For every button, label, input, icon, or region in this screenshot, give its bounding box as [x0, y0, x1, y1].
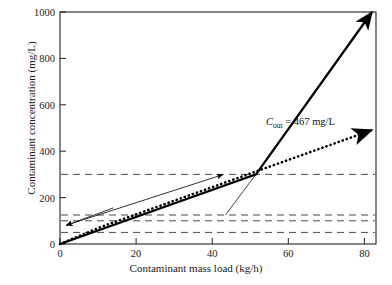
- x-tick-label: 0: [57, 248, 62, 259]
- y-tick-label: 400: [39, 146, 55, 157]
- chart-canvas: 1000 800 600 400 200 0 0 20 40 60 80: [0, 0, 392, 285]
- x-tick-labels: 0 20 40 60 80: [57, 248, 369, 259]
- x-tick-label: 40: [207, 248, 218, 259]
- x-axis-label: Contaminant mass load (kg/h): [0, 262, 392, 274]
- y-tick-label: 600: [39, 100, 55, 111]
- y-tick-label: 1000: [34, 7, 55, 18]
- y-axis-label: Contaminant concentration (mg/L): [25, 3, 37, 233]
- cout-value: = 467 mg/L: [283, 116, 335, 127]
- x-tick-label: 20: [131, 248, 142, 259]
- y-tick-label: 200: [39, 193, 55, 204]
- y-tick-labels: 1000 800 600 400 200 0: [34, 7, 55, 250]
- y-tick-label: 0: [50, 239, 55, 250]
- plot-frame: [60, 12, 376, 244]
- y-tick-label: 800: [39, 53, 55, 64]
- x-tick-label: 80: [359, 248, 370, 259]
- x-tick-label: 60: [283, 248, 294, 259]
- chart-figure: 1000 800 600 400 200 0 0 20 40 60 80: [0, 0, 392, 285]
